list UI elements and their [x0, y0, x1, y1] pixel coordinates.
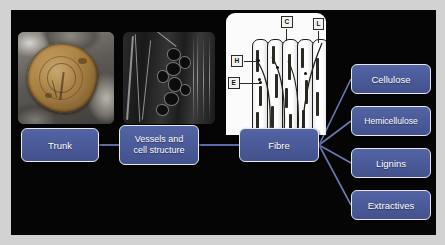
- component-box-lignins-label: Lignins: [376, 158, 406, 169]
- flow-box-fibre[interactable]: Fibre: [239, 128, 319, 162]
- vessel-pore: [180, 84, 191, 96]
- callout-label-cellulose: C: [281, 16, 293, 28]
- fibre-cell-wall-schematic: [226, 13, 326, 135]
- diagram-panel: C L H E Trunk Vessels and cell structure…: [11, 10, 436, 235]
- component-box-extractives-label: Extractives: [368, 200, 414, 211]
- longitudinal-fibre: [197, 32, 198, 122]
- longitudinal-fibre: [209, 35, 210, 121]
- vessel-pore: [157, 70, 169, 83]
- callout-label-lignins: L: [313, 18, 324, 30]
- flow-box-trunk[interactable]: Trunk: [21, 128, 99, 162]
- component-box-cellulose[interactable]: Cellulose: [351, 64, 431, 94]
- callout-label-extractives: E: [228, 77, 240, 89]
- cut-log-cross-section-photo: [18, 32, 114, 124]
- figure-canvas: C L H E Trunk Vessels and cell structure…: [0, 0, 445, 245]
- flow-box-vessels-and-cell-structure[interactable]: Vessels and cell structure: [119, 125, 199, 165]
- callout-label-hemicellulose: H: [231, 55, 243, 67]
- flow-box-trunk-label: Trunk: [48, 140, 72, 151]
- callout-leader-C: [286, 29, 287, 41]
- callout-point-E: [259, 81, 262, 84]
- flow-box-vessels-label-line2: cell structure: [133, 145, 184, 155]
- flow-box-vessels-label-line1: Vessels and: [135, 134, 184, 144]
- callout-leader-H: [244, 61, 258, 62]
- component-box-lignins[interactable]: Lignins: [351, 148, 431, 178]
- wood-cell-structure-micrograph: [123, 32, 215, 124]
- component-box-cellulose-label: Cellulose: [371, 74, 410, 85]
- longitudinal-fibre: [193, 34, 194, 122]
- callout-leader-E: [240, 83, 260, 84]
- vessel-pore: [156, 104, 169, 116]
- flow-box-fibre-label: Fibre: [268, 140, 290, 151]
- flow-box-vessels-label: Vessels and cell structure: [133, 134, 184, 156]
- longitudinal-fibre: [203, 38, 204, 122]
- component-box-hemicellulose[interactable]: Hemicellulose: [351, 106, 431, 136]
- wood-knot: [45, 93, 52, 98]
- vessel-pore: [179, 56, 191, 69]
- component-box-extractives[interactable]: Extractives: [351, 190, 431, 220]
- callout-point-H: [257, 59, 260, 62]
- hemicellulose-chains: [226, 13, 326, 135]
- callout-leader-L: [318, 31, 319, 43]
- vessel-pore: [164, 92, 179, 106]
- component-box-hemicellulose-label: Hemicellulose: [364, 116, 418, 127]
